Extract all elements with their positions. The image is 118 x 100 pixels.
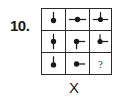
- question-mark: ?: [90, 53, 111, 74]
- grid-cell-r3c3-missing: ?: [90, 53, 111, 74]
- dot-stem-up-left-right-icon: [90, 9, 111, 30]
- dot-stem-right-icon: [66, 53, 89, 74]
- dot-stem-up-right-icon: [90, 31, 111, 52]
- question-number: 10.: [10, 17, 29, 34]
- dot-stem-left-right-icon: [66, 9, 89, 30]
- grid-cell-r1c1: [42, 9, 66, 31]
- figure-label: X: [69, 79, 79, 96]
- dot-stem-up-icon: [42, 9, 65, 30]
- grid-cell-r1c3: [90, 9, 111, 31]
- grid-cell-r1c2: [66, 9, 90, 31]
- grid-cell-r3c1: [42, 53, 66, 74]
- dot-stem-up-down-icon: [42, 31, 65, 52]
- grid-cell-r2c1: [42, 31, 66, 53]
- puzzle-grid: ?: [41, 8, 112, 75]
- dot-stem-right-down-icon: [66, 31, 89, 52]
- dot-stem-up-icon: [42, 53, 65, 74]
- grid-cell-r2c2: [66, 31, 90, 53]
- grid-cell-r2c3: [90, 31, 111, 53]
- grid-cell-r3c2: [66, 53, 90, 74]
